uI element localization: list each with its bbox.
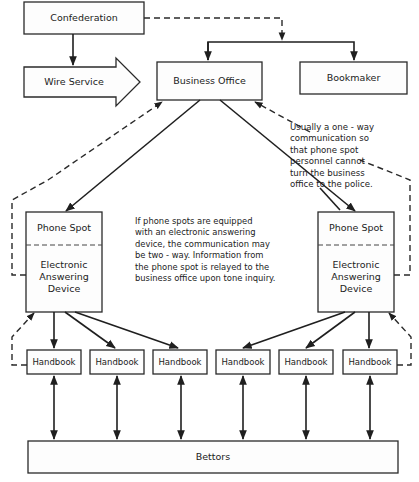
handbook-label-5: Handbook — [279, 356, 333, 368]
answering-device-right-label: Electronic Answering Device — [318, 259, 394, 295]
handbook-label-4: Handbook — [216, 356, 270, 368]
one-way-note: Usually a one - way communication so tha… — [290, 122, 418, 190]
business-office-label: Business Office — [157, 75, 262, 87]
phone-spot-left-label: Phone Spot — [26, 222, 102, 234]
handbook-label-6: Handbook — [343, 356, 397, 368]
phone-spot-right-label: Phone Spot — [318, 222, 394, 234]
wire-service-label: Wire Service — [24, 76, 124, 88]
two-way-note: If phone spots are equipped with an elec… — [135, 216, 310, 284]
bookmaker-label: Bookmaker — [300, 72, 407, 84]
handbook-label-1: Handbook — [27, 356, 81, 368]
confederation-label: Confederation — [24, 12, 144, 24]
answering-device-left-label: Electronic Answering Device — [26, 259, 102, 295]
handbook-label-3: Handbook — [153, 356, 207, 368]
handbook-label-2: Handbook — [90, 356, 144, 368]
bettors-label: Bettors — [28, 451, 398, 463]
diagram-canvas: Confederation Wire Service Business Offi… — [0, 0, 419, 482]
